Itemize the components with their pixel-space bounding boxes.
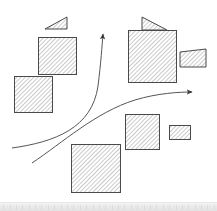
strip-tick	[118, 205, 119, 210]
strip-tick	[131, 205, 132, 210]
shape-small-rect-right	[170, 126, 191, 140]
strip-tick	[137, 205, 138, 210]
strip-tick	[73, 205, 74, 210]
strip-tick	[22, 205, 23, 210]
strip-tick	[105, 205, 106, 210]
strip-tick	[86, 205, 87, 210]
shape-small-triangle-top-right	[142, 17, 167, 30]
strip-tick	[48, 205, 49, 210]
diagram-svg	[0, 0, 217, 211]
shape-large-square-bottom-center	[72, 145, 121, 193]
strip-tick	[176, 205, 177, 210]
strip-tick	[169, 205, 170, 210]
strip-tick	[29, 205, 30, 210]
strip-tick	[112, 205, 113, 210]
shape-large-square-top-left	[39, 38, 77, 75]
strip-tick	[207, 205, 208, 210]
strip-tick	[41, 205, 42, 210]
strip-tick	[201, 205, 202, 210]
strip-tick	[156, 205, 157, 210]
strip-tick	[61, 205, 62, 210]
shape-trapezoid-right	[180, 49, 206, 67]
strip-tick	[214, 205, 215, 210]
strip-tick	[3, 205, 4, 210]
strip-tick	[10, 205, 11, 210]
shape-large-square-top-right	[129, 31, 177, 83]
strip-tick	[144, 205, 145, 210]
strip-tick	[188, 205, 189, 210]
bottom-status-strip	[0, 202, 217, 211]
diagram-canvas	[0, 0, 217, 211]
shape-medium-square-mid-left	[15, 77, 53, 113]
strip-tick	[93, 205, 94, 210]
strip-tick	[150, 205, 151, 210]
strip-tick	[99, 205, 100, 210]
strip-tick	[124, 205, 125, 210]
strip-tick	[195, 205, 196, 210]
strip-tick	[182, 205, 183, 210]
strip-tick	[163, 205, 164, 210]
strip-tick	[67, 205, 68, 210]
strip-tick	[80, 205, 81, 210]
strip-tick	[54, 205, 55, 210]
strip-tick	[16, 205, 17, 210]
shapes-layer	[15, 17, 207, 193]
strip-tick	[35, 205, 36, 210]
shape-small-triangle-top-left	[45, 17, 67, 29]
shape-medium-square-mid-right	[126, 115, 160, 150]
